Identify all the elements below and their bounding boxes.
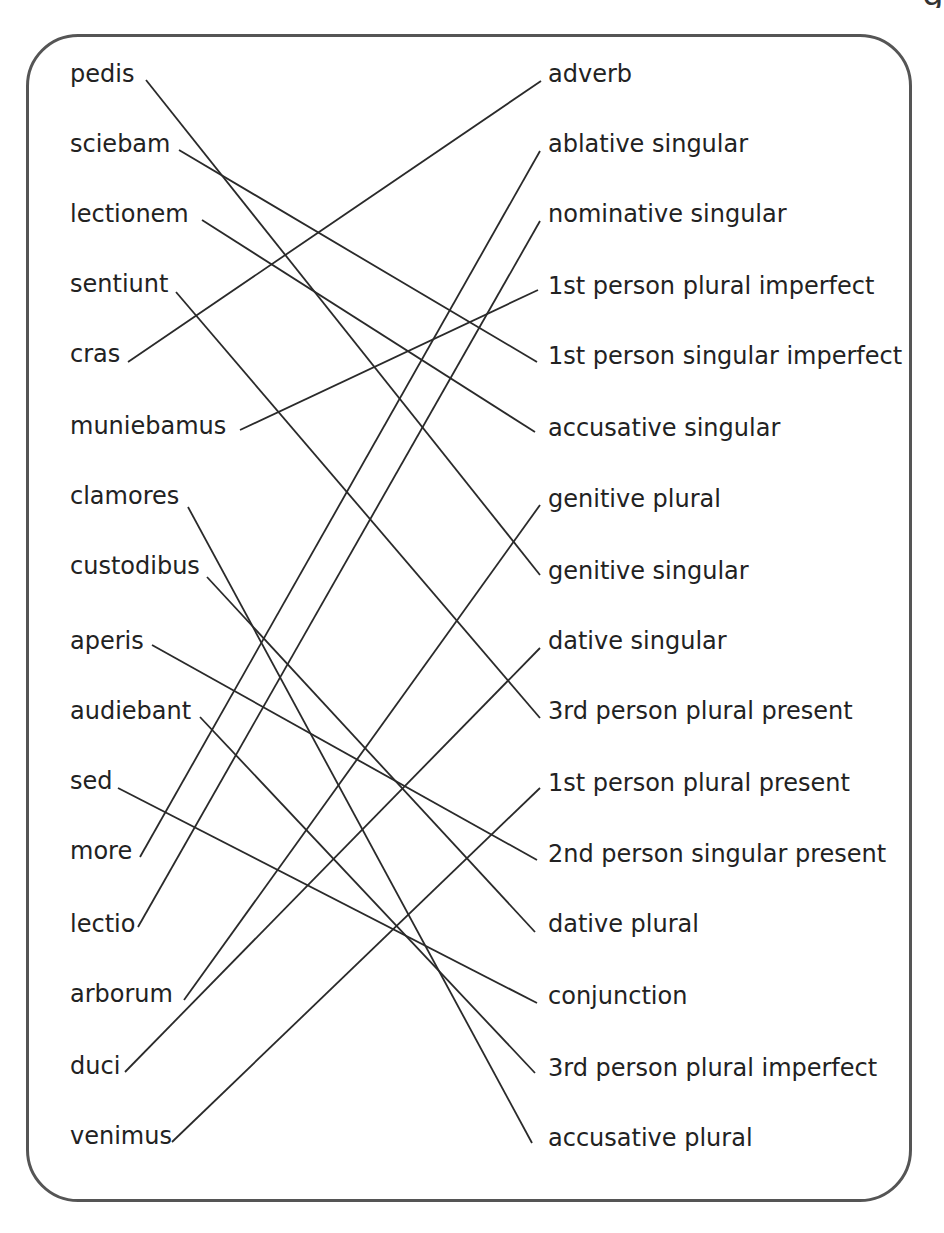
grammar-description: adverb bbox=[548, 59, 632, 89]
grammar-description: 1st person plural present bbox=[548, 768, 850, 798]
latin-word: muniebamus bbox=[70, 411, 226, 441]
latin-word: custodibus bbox=[70, 551, 200, 581]
grammar-description: accusative plural bbox=[548, 1123, 753, 1153]
grammar-description: 3rd person plural imperfect bbox=[548, 1053, 877, 1083]
grammar-description: dative singular bbox=[548, 626, 727, 656]
latin-word: clamores bbox=[70, 481, 179, 511]
latin-word: lectio bbox=[70, 909, 135, 939]
grammar-description: 2nd person singular present bbox=[548, 839, 886, 869]
latin-word: arborum bbox=[70, 979, 173, 1009]
connector-line bbox=[128, 81, 541, 362]
latin-word: cras bbox=[70, 339, 120, 369]
connector-line bbox=[202, 220, 535, 432]
connector-line bbox=[152, 645, 537, 860]
latin-word: duci bbox=[70, 1051, 120, 1081]
connector-line bbox=[188, 507, 532, 1143]
grammar-description: 3rd person plural present bbox=[548, 696, 853, 726]
latin-word: lectionem bbox=[70, 199, 189, 229]
connector-line bbox=[140, 151, 540, 857]
latin-word: venimus bbox=[70, 1121, 172, 1151]
grammar-description: ablative singular bbox=[548, 129, 748, 159]
latin-word: sed bbox=[70, 766, 113, 796]
latin-word: sciebam bbox=[70, 129, 170, 159]
latin-word: aperis bbox=[70, 626, 144, 656]
connector-line bbox=[118, 788, 537, 1003]
connector-line bbox=[207, 577, 535, 932]
grammar-description: 1st person singular imperfect bbox=[548, 341, 902, 371]
connector-line bbox=[172, 788, 540, 1142]
grammar-description: 1st person plural imperfect bbox=[548, 271, 874, 301]
latin-word: audiebant bbox=[70, 696, 191, 726]
connector-line bbox=[240, 290, 538, 430]
grammar-description: accusative singular bbox=[548, 413, 780, 443]
latin-word: pedis bbox=[70, 59, 134, 89]
connector-line bbox=[200, 717, 535, 1073]
connector-line bbox=[179, 150, 537, 362]
grammar-description: genitive singular bbox=[548, 556, 749, 586]
grammar-description: nominative singular bbox=[548, 199, 787, 229]
connector-line bbox=[146, 80, 540, 575]
grammar-description: conjunction bbox=[548, 981, 687, 1011]
latin-word: sentiunt bbox=[70, 269, 168, 299]
latin-word: more bbox=[70, 836, 132, 866]
connector-lines bbox=[0, 0, 944, 1233]
grammar-description: dative plural bbox=[548, 909, 699, 939]
grammar-description: genitive plural bbox=[548, 484, 721, 514]
